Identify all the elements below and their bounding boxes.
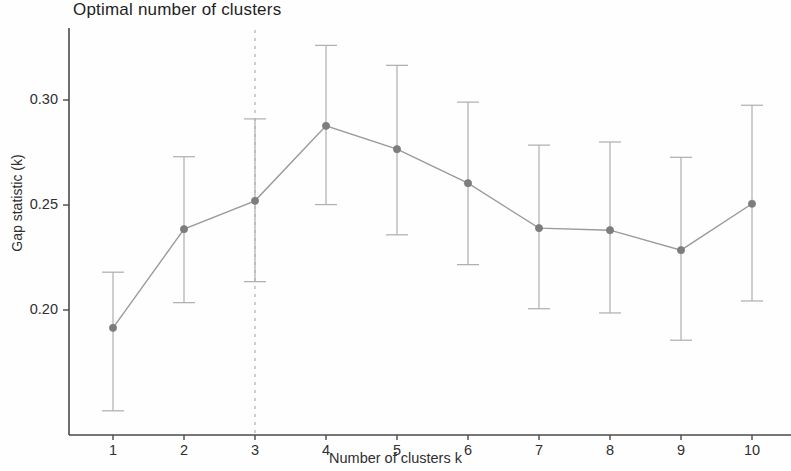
data-point-k8 xyxy=(606,227,613,234)
data-point-k7 xyxy=(535,225,542,232)
data-line xyxy=(113,126,752,328)
data-point-k9 xyxy=(677,247,684,254)
y-axis-title: Gap statistic (k) xyxy=(9,148,25,258)
data-point-k1 xyxy=(109,324,116,331)
x-axis-title: Number of clusters k xyxy=(0,450,791,466)
y-tick-label-0.20: 0.20 xyxy=(0,301,58,317)
gap-statistic-chart: Optimal number of clusters 0.300.250.20 … xyxy=(0,0,791,471)
data-point-k4 xyxy=(322,122,329,129)
plot-canvas xyxy=(0,0,791,471)
errorbar-k1 xyxy=(102,272,124,411)
data-point-k6 xyxy=(464,180,471,187)
errorbar-layer xyxy=(102,45,763,410)
data-markers xyxy=(109,122,755,331)
y-tick-label-0.30: 0.30 xyxy=(0,91,58,107)
data-point-k5 xyxy=(393,146,400,153)
data-point-k2 xyxy=(180,226,187,233)
axis-spines xyxy=(63,28,791,440)
data-point-k3 xyxy=(251,197,258,204)
data-point-k10 xyxy=(748,200,755,207)
